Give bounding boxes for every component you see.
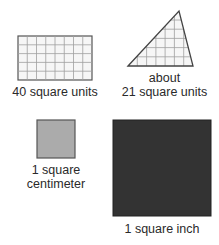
square-inch [113, 120, 211, 216]
square-centimeter-label-line-2: centimeter [6, 177, 106, 191]
rectangle-label-line: 40 square units [5, 85, 105, 99]
square-inch-label-line: 1 square inch [110, 222, 214, 236]
square-centimeter-label: 1 square centimeter [6, 163, 106, 191]
square-centimeter [37, 120, 75, 158]
grid-triangle [120, 0, 200, 70]
triangle-label: about 21 square units [110, 71, 219, 99]
grid-rectangle [18, 36, 92, 80]
square-inch-label: 1 square inch [110, 222, 214, 236]
rectangle-label: 40 square units [5, 85, 105, 99]
area-diagram [0, 0, 219, 245]
triangle-label-line-1: about [110, 71, 219, 85]
triangle-label-line-2: 21 square units [110, 85, 219, 99]
square-centimeter-label-line-1: 1 square [6, 163, 106, 177]
